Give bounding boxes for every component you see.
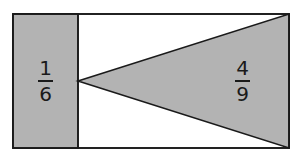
fraction-area-diagram: 1 6 4 9 [0,0,302,156]
diagram-canvas [0,0,302,156]
left-shaded-rectangle [13,14,78,148]
